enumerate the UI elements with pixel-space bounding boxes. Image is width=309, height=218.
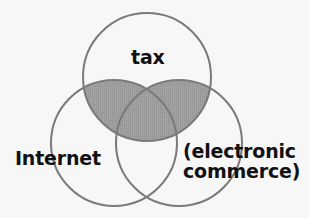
label-electronic-commerce: (electronic commerce): [183, 141, 300, 181]
label-ecommerce-line2: commerce): [183, 161, 300, 181]
label-internet: Internet: [15, 148, 101, 168]
label-ecommerce-line1: (electronic: [183, 141, 300, 161]
venn-diagram: tax Internet (electronic commerce): [0, 0, 309, 218]
venn-circles: [0, 0, 309, 218]
label-tax: tax: [131, 47, 165, 67]
